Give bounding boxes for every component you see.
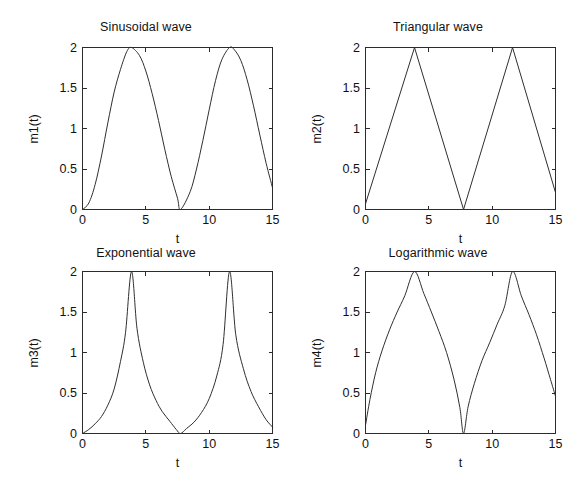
plot-area	[82, 271, 273, 434]
y-tick-label: 1.5	[60, 81, 77, 95]
axes-frame	[83, 48, 273, 210]
subplot-sinusoidal: Sinusoidal wave 00.511.52051015tm1(t)	[0, 14, 292, 246]
x-tick-label: 0	[362, 437, 369, 451]
y-tick-label: 0	[353, 427, 360, 441]
y-tick-label: 1.5	[343, 81, 360, 95]
plot-svg	[82, 271, 273, 434]
curve-m4	[366, 271, 556, 433]
plot-svg	[82, 47, 273, 210]
axes-frame	[83, 272, 273, 434]
y-tick-label: 2	[70, 265, 77, 279]
x-tick-label: 10	[202, 213, 216, 227]
x-tick-label: 5	[425, 213, 432, 227]
x-tick-label: 0	[79, 437, 86, 451]
tick-marks	[366, 48, 556, 210]
x-tick-label: 0	[362, 213, 369, 227]
x-tick-label: 10	[485, 213, 499, 227]
plot-svg	[365, 47, 556, 210]
figure-canvas: Sinusoidal wave 00.511.52051015tm1(t) Tr…	[0, 0, 584, 493]
plot-svg	[365, 271, 556, 434]
x-tick-label: 10	[485, 437, 499, 451]
subplot-triangular: Triangular wave 00.511.52051015tm2(t)	[292, 14, 584, 246]
x-axis-label: t	[459, 456, 462, 470]
subplot-logarithmic: Logarithmic wave 00.511.52051015tm4(t)	[292, 240, 584, 493]
x-tick-label: 0	[79, 213, 86, 227]
y-tick-label: 0.5	[60, 162, 77, 176]
curve-m1	[83, 47, 273, 210]
x-tick-label: 15	[549, 213, 563, 227]
y-tick-label: 1	[70, 122, 77, 136]
subplot-title: Sinusoidal wave	[0, 20, 292, 34]
y-tick-label: 1.5	[60, 305, 77, 319]
x-tick-label: 10	[202, 437, 216, 451]
y-tick-label: 0	[70, 427, 77, 441]
subplot-exponential: Exponential wave 00.511.52051015tm3(t)	[0, 240, 292, 493]
x-tick-label: 15	[266, 437, 280, 451]
y-tick-label: 0	[353, 203, 360, 217]
y-tick-label: 1	[353, 122, 360, 136]
y-axis-label: m1(t)	[27, 114, 41, 143]
y-tick-label: 2	[353, 41, 360, 55]
y-tick-label: 0.5	[343, 386, 360, 400]
y-axis-label: m3(t)	[27, 338, 41, 367]
plot-area	[82, 47, 273, 210]
y-tick-label: 0.5	[60, 386, 77, 400]
plot-area	[365, 47, 556, 210]
y-tick-label: 1	[70, 346, 77, 360]
y-tick-label: 2	[70, 41, 77, 55]
x-tick-label: 15	[266, 213, 280, 227]
subplot-title: Logarithmic wave	[292, 246, 584, 260]
y-axis-label: m2(t)	[310, 114, 324, 143]
subplot-title: Exponential wave	[0, 246, 292, 260]
axes-frame	[366, 48, 556, 210]
y-tick-label: 2	[353, 265, 360, 279]
x-axis-label: t	[176, 456, 179, 470]
curve-m2	[366, 48, 556, 210]
x-tick-label: 5	[425, 437, 432, 451]
curve-m3	[83, 271, 273, 433]
y-tick-label: 0	[70, 203, 77, 217]
subplot-title: Triangular wave	[292, 20, 584, 34]
x-tick-label: 5	[142, 437, 149, 451]
x-tick-label: 15	[549, 437, 563, 451]
plot-area	[365, 271, 556, 434]
tick-marks	[83, 272, 273, 434]
y-tick-label: 0.5	[343, 162, 360, 176]
tick-marks	[83, 48, 273, 210]
y-tick-label: 1	[353, 346, 360, 360]
y-axis-label: m4(t)	[310, 338, 324, 367]
y-tick-label: 1.5	[343, 305, 360, 319]
x-tick-label: 5	[142, 213, 149, 227]
